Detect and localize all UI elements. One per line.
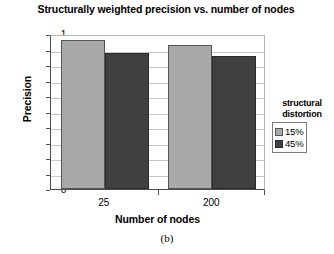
figure: Structurally weighted precision vs. numb… (0, 0, 334, 254)
x-tick-mark (264, 190, 265, 195)
plot-area (51, 36, 264, 189)
x-tick-label: 200 (176, 197, 246, 208)
legend-label: 45% (285, 138, 303, 149)
y-tick-mark (46, 190, 50, 191)
legend-title: structural distortion (272, 98, 332, 119)
legend-swatch-icon (275, 128, 283, 136)
bar-200-15% (168, 45, 212, 189)
figure-caption: (b) (0, 232, 334, 244)
bar-25-45% (105, 53, 149, 189)
legend-title-line-1: structural (282, 98, 322, 108)
legend-item-45%: 45% (275, 138, 303, 149)
x-tick-mark (158, 190, 159, 195)
legend-box: 15%45% (272, 122, 307, 153)
legend-title-line-2: distortion (282, 109, 322, 119)
chart-legend: structural distortion 15%45% (272, 98, 332, 153)
legend-item-15%: 15% (275, 126, 303, 137)
chart-title: Structurally weighted precision vs. numb… (30, 3, 302, 16)
x-axis-title: Number of nodes (50, 213, 265, 225)
bar-200-45% (212, 56, 256, 189)
legend-label: 15% (285, 126, 303, 137)
bar-25-15% (61, 40, 105, 189)
x-tick-label: 25 (69, 197, 139, 208)
legend-swatch-icon (275, 140, 283, 148)
plot-frame (50, 35, 265, 190)
